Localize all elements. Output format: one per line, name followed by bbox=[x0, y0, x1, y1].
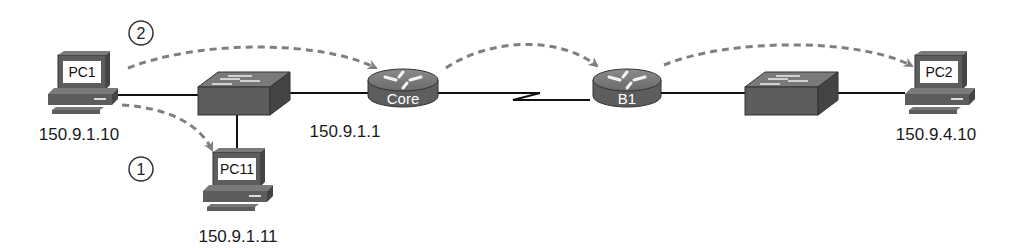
flow-arrow-step-2-b1-pc2 bbox=[664, 45, 912, 66]
pc2-device[interactable]: PC2 bbox=[905, 51, 975, 114]
network-diagram: 2 1 PC1 150.9.1.10 bbox=[0, 0, 1016, 248]
pc1-device[interactable]: PC1 bbox=[48, 51, 118, 114]
pc-icon bbox=[203, 148, 273, 211]
switch-icon bbox=[198, 72, 290, 115]
pc2-label: PC2 bbox=[925, 64, 952, 80]
step-marker-1: 1 bbox=[129, 157, 153, 181]
pc11-device[interactable]: PC11 bbox=[203, 148, 273, 211]
switch2-device[interactable] bbox=[745, 72, 838, 115]
step-number: 2 bbox=[137, 25, 146, 42]
switch1-device[interactable] bbox=[198, 72, 290, 115]
b1-router-label: B1 bbox=[618, 90, 636, 107]
step-marker-2: 2 bbox=[129, 21, 153, 45]
step-number: 1 bbox=[137, 161, 146, 178]
pc-icon bbox=[905, 51, 975, 114]
serial-link-core-b1 bbox=[437, 93, 590, 100]
pc1-address: 150.9.1.10 bbox=[39, 125, 119, 144]
pc11-label: PC11 bbox=[220, 161, 254, 177]
core-router-label: Core bbox=[387, 90, 420, 107]
flow-arrow-step-2-pc1-core bbox=[128, 47, 376, 68]
pc2-address: 150.9.4.10 bbox=[896, 125, 976, 144]
core-router-address: 150.9.1.1 bbox=[310, 122, 381, 141]
b1-router-device[interactable]: B1 bbox=[593, 69, 661, 107]
pc11-address: 150.9.1.11 bbox=[198, 227, 277, 246]
core-router-device[interactable]: Core bbox=[368, 69, 438, 107]
switch-icon bbox=[745, 72, 838, 115]
pc1-label: PC1 bbox=[68, 64, 95, 80]
pc-icon bbox=[48, 51, 118, 114]
flow-arrow-step-2-core-b1 bbox=[446, 44, 597, 68]
